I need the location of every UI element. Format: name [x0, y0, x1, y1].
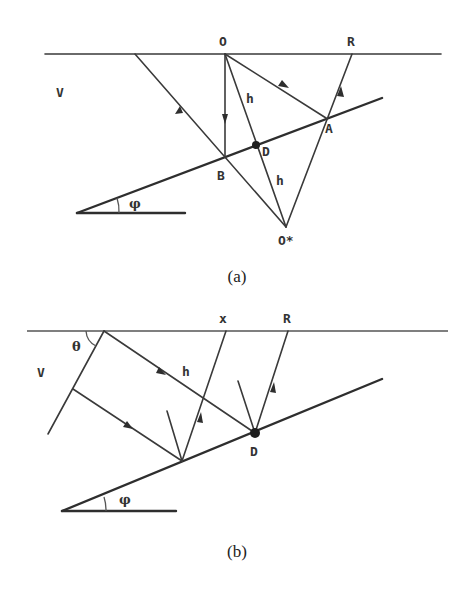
label-theta: θ	[72, 339, 81, 354]
ray-h-to-D	[104, 331, 255, 433]
diffractor-point-D	[250, 428, 260, 438]
normal-D	[238, 381, 255, 433]
ray-O-A	[225, 54, 326, 118]
dip-angle-arc	[117, 198, 119, 213]
label-R: R	[283, 311, 291, 326]
incidence-angle-arc	[86, 331, 96, 346]
dip-angle-arc	[104, 497, 106, 511]
arrow-right-icon	[278, 80, 289, 88]
label-O-star: O*	[278, 233, 294, 248]
label-h: h	[182, 364, 190, 379]
diffractor-point-D	[252, 141, 260, 149]
ray-B-up-left	[135, 54, 286, 227]
label-phi: φ	[119, 492, 131, 507]
ray-A-R	[286, 54, 352, 227]
label-V: V	[56, 85, 64, 100]
ray-D-to-R	[255, 331, 288, 433]
label-h-lower: h	[276, 173, 284, 188]
figure-a: O R V h A D B h φ O* (a)	[45, 34, 441, 286]
ray-reflected-to-x	[182, 331, 226, 461]
label-B: B	[217, 168, 225, 183]
label-x: x	[219, 311, 227, 326]
ray-diagrams: O R V h A D B h φ O* (a) x R θ V h	[0, 0, 475, 589]
label-phi: φ	[129, 196, 141, 211]
label-D: D	[262, 144, 270, 159]
label-R: R	[347, 34, 355, 49]
label-A: A	[325, 121, 333, 136]
label-D: D	[250, 444, 258, 459]
figure-b: x R θ V h D φ (b)	[27, 311, 448, 561]
label-V: V	[37, 365, 45, 380]
caption-a: (a)	[228, 267, 247, 286]
label-h-upper: h	[246, 91, 254, 106]
label-O: O	[219, 34, 227, 49]
dipping-reflector	[62, 379, 382, 511]
arrow-down-icon	[222, 114, 228, 124]
dipping-reflector	[77, 98, 382, 213]
line-O-Ostar-through-D	[225, 54, 286, 227]
caption-b: (b)	[227, 542, 247, 561]
